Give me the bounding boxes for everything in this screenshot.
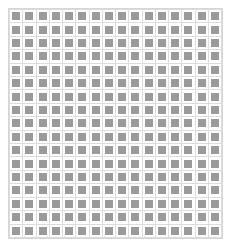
grid-cell xyxy=(10,103,23,116)
grid-cell xyxy=(23,77,36,90)
grid-cell xyxy=(116,63,129,76)
grid-cell xyxy=(63,117,76,130)
grid-cell-tile xyxy=(145,12,153,20)
grid-cell-tile xyxy=(131,12,139,20)
grid-cell-tile xyxy=(131,200,139,208)
grid-cell-tile xyxy=(78,160,86,168)
grid-cell-tile xyxy=(52,133,60,141)
grid-cell xyxy=(116,90,129,103)
grid-cell-tile xyxy=(25,66,33,74)
grid-cell-tile xyxy=(158,12,166,20)
grid-cell xyxy=(102,23,115,36)
grid-cell-tile xyxy=(211,200,219,208)
grid-cell-tile xyxy=(105,146,113,154)
grid-cell-tile xyxy=(211,227,219,235)
grid-cell-tile xyxy=(12,79,20,87)
grid-cell xyxy=(63,157,76,170)
grid-cell-tile xyxy=(211,66,219,74)
grid-cell-tile xyxy=(211,12,219,20)
grid-cell xyxy=(36,184,49,197)
grid-cell xyxy=(10,197,23,210)
grid-cell xyxy=(169,63,182,76)
grid-cell-tile xyxy=(198,106,206,114)
grid-cell-tile xyxy=(198,133,206,141)
grid-row xyxy=(10,157,222,170)
grid-cell-tile xyxy=(65,66,73,74)
grid-cell-tile xyxy=(12,12,20,20)
grid-cell-tile xyxy=(25,93,33,101)
grid-cell-tile xyxy=(39,52,47,60)
grid-cell xyxy=(89,50,102,63)
grid-cell-tile xyxy=(211,52,219,60)
grid-cell xyxy=(169,197,182,210)
grid-cell-tile xyxy=(65,160,73,168)
grid-cell-tile xyxy=(39,146,47,154)
grid-cell xyxy=(129,157,142,170)
grid-cell-tile xyxy=(184,39,192,47)
grid-cell-tile xyxy=(171,213,179,221)
grid-cell-tile xyxy=(131,93,139,101)
grid-cell xyxy=(155,36,168,49)
grid-cell-tile xyxy=(25,227,33,235)
grid-cell xyxy=(63,224,76,238)
grid-cell xyxy=(23,103,36,116)
grid-row xyxy=(10,211,222,224)
grid-cell-tile xyxy=(12,160,20,168)
grid-cell xyxy=(116,224,129,238)
grid-cell xyxy=(76,103,89,116)
grid-cell-tile xyxy=(78,106,86,114)
grid-cell xyxy=(10,36,23,49)
grid-cell-tile xyxy=(198,186,206,194)
grid-cell-tile xyxy=(171,39,179,47)
grid-cell-tile xyxy=(52,79,60,87)
grid-cell-tile xyxy=(25,173,33,181)
grid-cell xyxy=(102,224,115,238)
grid-cell xyxy=(195,170,208,183)
grid-cell xyxy=(182,63,195,76)
grid-cell-tile xyxy=(105,200,113,208)
grid-cell xyxy=(10,184,23,197)
grid-cell-tile xyxy=(184,66,192,74)
figure-canvas xyxy=(0,0,231,247)
grid-cell xyxy=(23,117,36,130)
grid-cell-tile xyxy=(105,12,113,20)
grid-cell-tile xyxy=(105,93,113,101)
grid-row xyxy=(10,170,222,183)
grid-cell xyxy=(208,224,221,238)
grid-cell xyxy=(195,224,208,238)
grid-cell-tile xyxy=(78,52,86,60)
grid-cell xyxy=(36,77,49,90)
grid-cell-tile xyxy=(25,119,33,127)
grid-cell-tile xyxy=(198,173,206,181)
grid-cell xyxy=(129,184,142,197)
grid-cell xyxy=(116,211,129,224)
grid-cell-tile xyxy=(198,66,206,74)
grid-cell xyxy=(142,36,155,49)
grid-cell-tile xyxy=(92,186,100,194)
grid-cell xyxy=(208,77,221,90)
grid-cell xyxy=(89,130,102,143)
grid-cell-tile xyxy=(12,186,20,194)
grid-cell-tile xyxy=(171,26,179,34)
grid-cell xyxy=(102,157,115,170)
grid-cell-tile xyxy=(65,227,73,235)
grid-cell-tile xyxy=(78,39,86,47)
grid-cell xyxy=(195,197,208,210)
grid-cell-tile xyxy=(105,213,113,221)
grid-cell-tile xyxy=(158,133,166,141)
grid-cell xyxy=(102,50,115,63)
grid-cell xyxy=(89,77,102,90)
grid-cell xyxy=(182,130,195,143)
grid-cell xyxy=(76,224,89,238)
grid-cell xyxy=(102,130,115,143)
grid-cell xyxy=(155,90,168,103)
grid-cell-tile xyxy=(131,79,139,87)
grid-cell xyxy=(142,63,155,76)
grid-cell xyxy=(76,10,89,23)
grid-row xyxy=(10,130,222,143)
grid-cell-tile xyxy=(78,79,86,87)
grid-cell xyxy=(195,144,208,157)
grid-cell xyxy=(208,211,221,224)
grid-cell-tile xyxy=(65,213,73,221)
grid-cell xyxy=(76,170,89,183)
